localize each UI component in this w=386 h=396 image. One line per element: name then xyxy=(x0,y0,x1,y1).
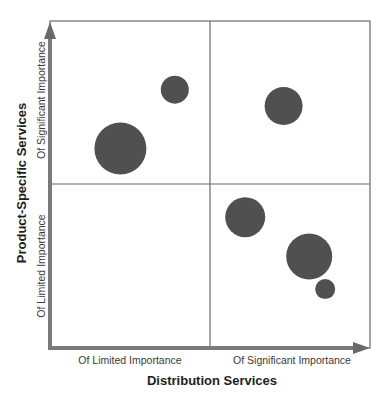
bubble-2 xyxy=(161,76,189,104)
bubble-6 xyxy=(315,279,335,299)
x-label-low: Of Limited Importance xyxy=(78,354,181,366)
bubble-1 xyxy=(94,123,146,175)
bubble-5 xyxy=(286,233,332,279)
x-label-high: Of Significant Importance xyxy=(233,354,351,366)
y-label-high: Of Significant Importance xyxy=(35,41,47,159)
y-label-low: Of Limited Importance xyxy=(35,214,47,317)
y-axis-title: Product-Specific Services xyxy=(14,103,29,263)
x-axis-shaft xyxy=(48,346,356,350)
bubble-3 xyxy=(265,87,303,125)
x-axis-title: Distribution Services xyxy=(147,373,277,388)
bubble-quadrant-chart: Of Limited Importance Of Significant Imp… xyxy=(0,0,386,396)
y-axis-shaft xyxy=(48,36,52,350)
bubble-4 xyxy=(225,197,265,237)
